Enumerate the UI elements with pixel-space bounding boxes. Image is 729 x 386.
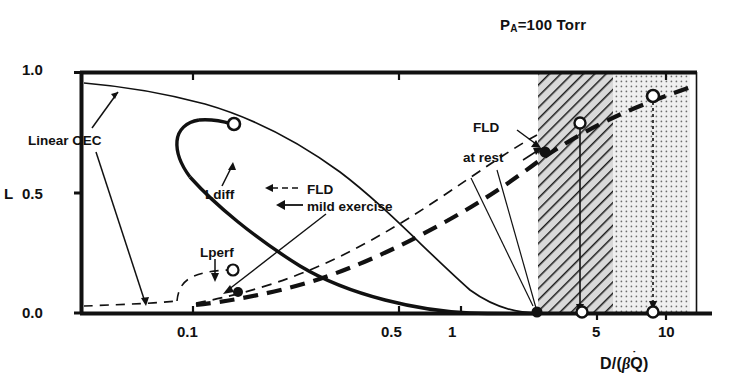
marker-baseline-filled [532, 307, 543, 318]
figure-root: PA=100 Torr 1.0 L 0.5 0.0 0.1 0.5 1 5 10… [0, 0, 729, 386]
band-healthy-at-rest [613, 73, 690, 313]
arrowhead-linear-oec-upper [111, 92, 118, 99]
arrowhead-linear-oec-lower [141, 297, 149, 306]
arrowhead-lperf [211, 273, 219, 282]
marker-lperf-open-end [228, 265, 239, 276]
leader-linear-oec-lower [96, 152, 145, 302]
arrowhead-fld-mild-dot [276, 200, 285, 210]
curve-ldiff-hook-left [177, 120, 199, 177]
marker-curve-open-rest [647, 90, 659, 102]
arrowhead-ldiff [228, 162, 236, 170]
leader-fld-rest-baseline-b [471, 178, 533, 306]
marker-fld-rest-filled [540, 147, 551, 158]
band-healthy-mild-exercise [538, 73, 613, 313]
leader-fld-rest-baseline-a [497, 170, 536, 308]
curve-lperf-rise [177, 270, 232, 301]
curve-fld-mild-exercise [196, 135, 537, 303]
marker-curve-open-mild [575, 118, 586, 129]
marker-ldiff-open-end [228, 118, 240, 130]
arrowhead-fld-mild-dashed [265, 184, 273, 192]
marker-baseline-open-mild [577, 307, 588, 318]
curve-lperf-flat [84, 301, 177, 306]
plot-canvas [0, 0, 729, 386]
marker-baseline-open-rest [648, 307, 659, 318]
curve-linear-oec [84, 83, 537, 313]
marker-fld-mild-filled [233, 287, 243, 297]
